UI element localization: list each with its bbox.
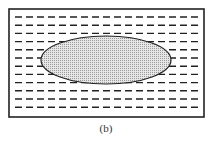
shaded-ellipse xyxy=(41,36,171,84)
figure-caption: (b) xyxy=(0,122,212,134)
